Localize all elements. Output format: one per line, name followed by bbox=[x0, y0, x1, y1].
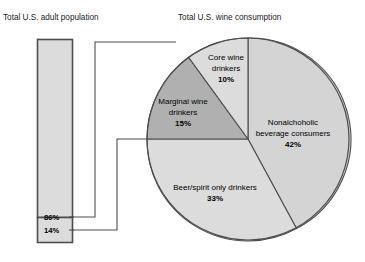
pie-label-nonalcoholic-line2: beverage consumers bbox=[256, 129, 331, 138]
chart-svg: Total U.S. adult population Total U.S. w… bbox=[0, 0, 365, 262]
bar-chart-title: Total U.S. adult population bbox=[3, 13, 99, 22]
pie-pct-core-wine: 10% bbox=[218, 75, 234, 84]
pie-pct-marginal-wine: 15% bbox=[175, 119, 191, 128]
pie-label-beer-spirit-line1: Beer/spirit only drinkers bbox=[173, 183, 257, 192]
pie-label-core-wine-line1: Core wine bbox=[208, 53, 245, 62]
figure-container: Total U.S. adult population Total U.S. w… bbox=[0, 0, 365, 262]
bar-label-14: 14% bbox=[44, 226, 59, 235]
bar-label-86: 86% bbox=[44, 213, 59, 222]
pie-pct-nonalcoholic: 42% bbox=[285, 140, 301, 149]
bar-segment-86 bbox=[38, 40, 73, 218]
pie-label-core-wine-line2: drinkers bbox=[212, 64, 240, 73]
pie-label-marginal-wine-line2: drinkers bbox=[169, 108, 197, 117]
pie-label-marginal-wine-line1: Marginal wine bbox=[158, 97, 208, 106]
leader-line-14 bbox=[73, 139, 151, 230]
pie-chart-group bbox=[147, 38, 351, 241]
pie-chart-title: Total U.S. wine consumption bbox=[178, 13, 282, 22]
pie-label-nonalcoholic-line1: Nonalchoholic bbox=[268, 118, 318, 127]
pie-pct-beer-spirit: 33% bbox=[207, 194, 223, 203]
